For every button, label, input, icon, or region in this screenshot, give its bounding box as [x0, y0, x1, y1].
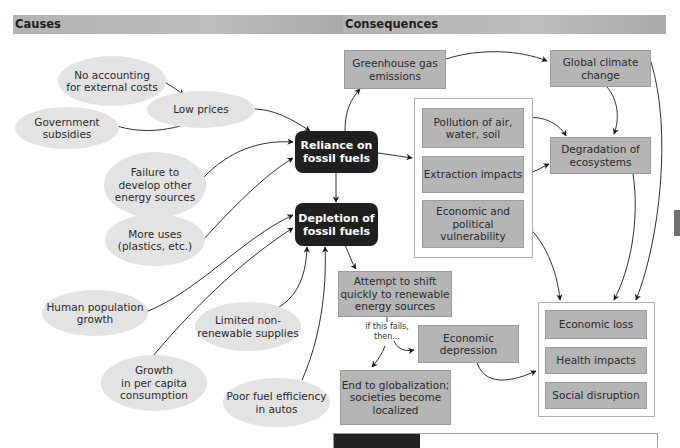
- depletion-of-fossil-fuels: Depletion of fossil fuels: [295, 203, 378, 246]
- reliance-on-fossil-fuels: Reliance on fossil fuels: [295, 131, 378, 173]
- consequences-header-bar: Consequences: [343, 15, 666, 34]
- cause-per-capita-growth: Growth in per capita consumption: [101, 355, 207, 411]
- cause-limited-supplies: Limited non- renewable supplies: [195, 302, 301, 351]
- economic-loss: Economic loss: [545, 310, 647, 339]
- health-impacts: Health impacts: [545, 347, 647, 374]
- causes-header: Causes: [15, 17, 61, 31]
- consequences-header: Consequences: [345, 17, 438, 31]
- cause-low-prices: Low prices: [147, 91, 255, 128]
- end-to-globalization: End to globalization; societies become l…: [340, 370, 451, 425]
- cause-failure-to-develop: Failure to develop other energy sources: [104, 152, 206, 218]
- economic-depression: Economic depression: [418, 325, 519, 363]
- cause-human-population: Human population growth: [42, 290, 148, 336]
- if-fails-note: if this fails, then...: [364, 322, 410, 341]
- causes-header-bar: Causes: [13, 15, 343, 34]
- cause-poor-fuel-efficiency: Poor fuel efficiency in autos: [223, 378, 330, 427]
- extraction-impacts: Extraction impacts: [422, 156, 524, 193]
- pollution-air-water-soil: Pollution of air, water, soil: [422, 108, 524, 148]
- attempt-to-shift-renewables: Attempt to shift quickly to renewable en…: [338, 271, 452, 317]
- economic-political-vulnerability: Economic and political vulnerability: [422, 200, 524, 248]
- cause-government-subsidies: Government subsidies: [15, 107, 119, 149]
- cause-no-accounting: No accounting for external costs: [58, 56, 166, 106]
- greenhouse-gas-emissions: Greenhouse gas emissions: [344, 50, 446, 89]
- bottom-caption-bar: [333, 433, 658, 448]
- global-climate-change: Global climate change: [550, 50, 651, 87]
- cause-more-uses: More uses (plastics, etc.): [105, 214, 205, 266]
- page-edge-marker: [674, 210, 680, 236]
- degradation-of-ecosystems: Degradation of ecosystems: [550, 137, 651, 174]
- caption-dark-segment: [334, 434, 420, 448]
- social-disruption: Social disruption: [545, 382, 647, 409]
